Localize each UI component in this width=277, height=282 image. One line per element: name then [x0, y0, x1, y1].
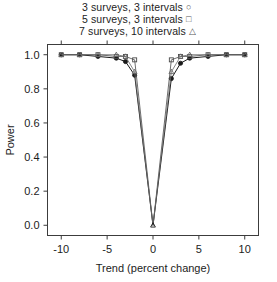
y-axis-title: Power [4, 124, 16, 156]
legend-marker-triangle-icon: △ [189, 26, 198, 38]
legend-marker-circle-icon: ○ [186, 2, 195, 14]
series-1 [59, 53, 246, 226]
plot-box [48, 45, 259, 236]
y-tick-label-1: 0.2 [24, 185, 39, 197]
chart-legend: 3 surveys, 3 intervals ○ 5 surveys, 3 in… [0, 2, 277, 38]
y-tick-label-5: 1.0 [24, 49, 39, 61]
data-point-0-4 [123, 59, 127, 63]
y-tick-label-4: 0.8 [24, 83, 39, 95]
series-0 [59, 53, 247, 226]
series-2 [59, 52, 247, 225]
plot-frame [48, 45, 259, 236]
power-curve-figure: 3 surveys, 3 intervals ○ 5 surveys, 3 in… [0, 0, 277, 282]
x-axis-title: Trend (percent change) [96, 262, 211, 274]
x-tick-label-3: 5 [196, 243, 202, 255]
data-series-layer [59, 52, 247, 227]
axis-labels-layer: -10-505100.00.20.40.60.81.0Trend (percen… [4, 49, 251, 274]
data-point-0-8 [178, 61, 182, 65]
x-tick-label-1: -5 [102, 243, 112, 255]
legend-entry-7-surveys-10-intervals: 7 surveys, 10 intervals △ [0, 26, 277, 38]
axis-ticks [44, 41, 245, 240]
series-line-2 [61, 55, 244, 226]
y-tick-label-3: 0.6 [24, 117, 39, 129]
series-line-0 [61, 55, 244, 226]
x-tick-label-4: 10 [239, 243, 251, 255]
legend-label-1: 5 surveys, 3 intervals [82, 13, 183, 25]
plot-canvas: -10-505100.00.20.40.60.81.0Trend (percen… [0, 0, 277, 282]
y-tick-label-2: 0.4 [24, 151, 39, 163]
series-line-1 [61, 55, 244, 226]
data-point-0-7 [169, 77, 173, 81]
x-tick-label-2: 0 [150, 243, 156, 255]
y-tick-label-0: 0.0 [24, 219, 39, 231]
legend-label-0: 3 surveys, 3 intervals [82, 1, 183, 13]
legend-label-2: 7 surveys, 10 intervals [79, 25, 186, 37]
x-tick-label-0: -10 [53, 243, 69, 255]
